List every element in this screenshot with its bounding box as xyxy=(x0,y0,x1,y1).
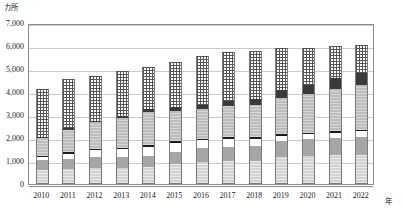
x-tick-label: 2011 xyxy=(55,192,82,200)
x-tick-label: 2015 xyxy=(161,192,188,200)
x-tick-label: 2012 xyxy=(81,192,108,200)
x-tick-label: 2016 xyxy=(188,192,215,200)
x-tick-label: 2017 xyxy=(214,192,241,200)
x-tick-label: 2013 xyxy=(108,192,135,200)
x-tick-label: 2019 xyxy=(268,192,295,200)
x-tick-label: 2020 xyxy=(294,192,321,200)
x-axis-tick-labels: 2010201120122013201420152016201720182019… xyxy=(0,0,403,215)
x-tick-label: 2022 xyxy=(347,192,374,200)
stacked-bar-chart: カ所 01,0002,0003,0004,0005,0006,0007,000 … xyxy=(0,0,403,215)
x-tick-label: 2018 xyxy=(241,192,268,200)
x-tick-label: 2010 xyxy=(28,192,55,200)
x-tick-label: 2014 xyxy=(134,192,161,200)
x-axis-unit-label: 年 xyxy=(385,195,392,206)
x-tick-label: 2021 xyxy=(321,192,348,200)
